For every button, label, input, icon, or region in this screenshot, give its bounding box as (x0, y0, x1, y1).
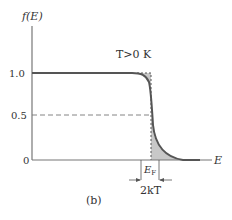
y-axis-label: f(E) (21, 10, 43, 23)
arrowhead-left (136, 178, 141, 182)
width-label-2kT: 2kT (140, 184, 162, 197)
ytick-0-5: 0.5 (11, 110, 27, 121)
fermi-dirac-curve (32, 73, 200, 160)
arrowhead-right (159, 178, 164, 182)
ytick-0: 0 (23, 155, 29, 166)
temperature-annotation: T>0 K (116, 48, 152, 61)
ytick-1: 1.0 (9, 68, 25, 79)
fermi-level-label: EF (143, 164, 156, 177)
fermi-dirac-diagram: f(E) 1.0 0.5 0 T>0 K E EF 2kT (b) (0, 0, 232, 220)
x-axis-label: E (213, 154, 222, 167)
panel-label: (b) (86, 194, 102, 207)
